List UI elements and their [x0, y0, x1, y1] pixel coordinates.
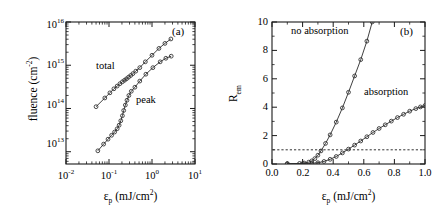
figure-text-overlay: 1016 1015 1014 1013 fluence (cm-2) 10-2 …: [0, 0, 440, 219]
panel-b-xtick-0.2: 0.2: [289, 167, 317, 178]
panel-b-xtick-0.8: 0.8: [380, 167, 408, 178]
panel-b-xtick-0.4: 0.4: [319, 167, 347, 178]
panel-b-label: (b): [400, 25, 413, 37]
panel-a-xtick-1e-1: 10-1: [95, 168, 123, 181]
series-label-no-absorption: no absorption: [291, 25, 348, 36]
panel-b-xtick-1.0: 1.0: [411, 167, 439, 178]
series-label-total: total: [96, 60, 115, 71]
panel-a-xtick-1e0: 100: [138, 168, 166, 181]
series-label-peak: peak: [136, 94, 156, 105]
panel-a-label: (a): [172, 25, 184, 37]
panel-a-yaxis-title: fluence (cm-2): [25, 29, 39, 149]
panel-b-xtick-0.6: 0.6: [350, 167, 378, 178]
panel-a-ytick-1e16: 1016: [18, 17, 64, 30]
panel-b-xaxis-title: εp (mJ/cm2): [272, 188, 425, 205]
panel-b-yaxis-title: Rem: [227, 54, 242, 134]
scientific-figure: 1016 1015 1014 1013 fluence (cm-2) 10-2 …: [0, 0, 440, 219]
panel-a-xtick-1e1: 101: [181, 168, 209, 181]
panel-b-xtick-0.0: 0.0: [258, 167, 286, 178]
series-label-absorption: absorption: [364, 86, 408, 97]
panel-a-xaxis-title: εp (mJ/cm2): [66, 188, 195, 205]
panel-a-xtick-1e-2: 10-2: [52, 168, 80, 181]
panel-b-ytick-10: 10: [238, 16, 268, 27]
